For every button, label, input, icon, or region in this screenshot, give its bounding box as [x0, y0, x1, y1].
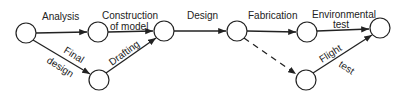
label-environmental-test: test	[333, 19, 349, 30]
edge-dummy-dashed	[244, 38, 296, 74]
label-analysis: Analysis	[42, 11, 79, 22]
node-6	[370, 18, 390, 38]
node-3	[154, 21, 174, 41]
label-fabrication: Fabrication	[248, 10, 297, 21]
label-flight-test: test	[337, 58, 357, 76]
edge-fabrication	[247, 31, 296, 32]
node-8	[296, 70, 316, 90]
network-diagram: Analysis Construction of model Final des…	[0, 0, 397, 100]
node-1	[16, 23, 36, 43]
label-design: Design	[187, 10, 218, 21]
label-drafting: Drafting	[107, 38, 142, 67]
edge-analysis	[36, 32, 87, 33]
label-construction: Construction	[102, 10, 158, 21]
node-2	[88, 22, 108, 42]
label-final: Final	[62, 44, 86, 65]
node-7	[89, 70, 109, 90]
label-of-model: of model	[110, 21, 148, 32]
node-4	[227, 21, 247, 41]
node-5	[297, 22, 317, 42]
